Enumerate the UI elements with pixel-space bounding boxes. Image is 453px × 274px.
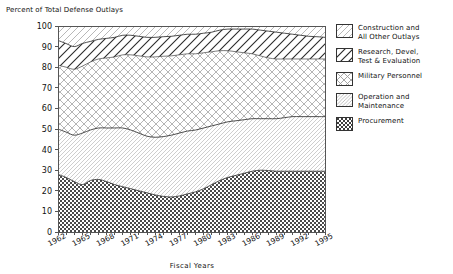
y-tick-label: 10 — [42, 207, 52, 216]
y-tick-labels: 0102030405060708090100 — [37, 22, 52, 237]
chart-root: Percent of Total Defense Outlays — [0, 0, 453, 274]
x-axis-title: Fiscal Years — [170, 262, 215, 270]
legend-swatch-diagonal-bold-icon — [336, 48, 353, 62]
y-tick-label: 40 — [42, 146, 52, 155]
legend-item[interactable]: Research, Devel, Test & Evaluation — [336, 48, 453, 65]
legend-label: Construction and All Other Outlays — [358, 24, 420, 41]
stacked-bands — [58, 26, 325, 232]
legend-swatch-diagonal-fine-icon — [336, 24, 353, 38]
y-tick-label: 30 — [42, 166, 52, 175]
legend-swatch-cross-hatch-icon — [336, 72, 353, 86]
x-tick-labels: 1962196519681971197419771980198319861989… — [46, 231, 334, 248]
y-tick-label: 60 — [42, 104, 52, 113]
y-tick-label: 100 — [37, 22, 52, 31]
legend-label: Military Personnel — [358, 72, 422, 81]
legend-item[interactable]: Procurement — [336, 117, 453, 131]
legend-label: Research, Devel, Test & Evaluation — [358, 48, 420, 65]
legend-item[interactable]: Operation and Maintenance — [336, 93, 453, 110]
legend-item[interactable]: Military Personnel — [336, 72, 453, 86]
y-tick-label: 80 — [42, 63, 52, 72]
y-tick-label: 70 — [42, 84, 52, 93]
y-tick-label: 50 — [42, 125, 52, 134]
y-tick-label: 90 — [42, 43, 52, 52]
y-tick-label: 20 — [42, 187, 52, 196]
legend-label: Procurement — [358, 117, 404, 126]
chart-legend: Construction and All Other OutlaysResear… — [336, 24, 453, 138]
legend-swatch-diagonal-dense-icon — [336, 93, 353, 107]
y-tick-label: 0 — [47, 228, 52, 237]
legend-swatch-checkerboard-icon — [336, 117, 353, 131]
legend-item[interactable]: Construction and All Other Outlays — [336, 24, 453, 41]
legend-label: Operation and Maintenance — [358, 93, 410, 110]
